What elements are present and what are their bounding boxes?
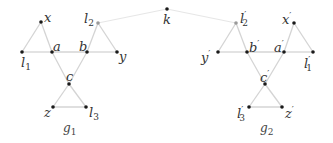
edge-l2-k: [98, 9, 167, 23]
label-l1p: l′1: [304, 56, 312, 73]
node-l1: [20, 50, 24, 54]
edge-k-l2p: [167, 9, 236, 23]
edge-l2p-yp: [218, 23, 236, 52]
label-ap: a′: [274, 40, 284, 54]
label-c: c: [66, 70, 73, 83]
label-bp: b′: [249, 40, 259, 54]
label-l3: l3: [89, 106, 99, 122]
node-l3: [84, 105, 88, 109]
label-z: z: [44, 106, 51, 119]
label-x: x: [44, 11, 51, 24]
label-b: b: [79, 40, 87, 53]
label-cp: c′: [260, 70, 269, 84]
node-yp: [216, 50, 220, 54]
label-zp: z′: [285, 106, 294, 120]
node-x: [39, 20, 43, 24]
edge-x-l1: [22, 22, 41, 52]
label-l3p: l′3: [237, 106, 245, 123]
label-g2: g2: [260, 122, 273, 137]
label-l2p: l′2: [240, 11, 248, 28]
node-l2: [96, 21, 100, 25]
node-xp: [292, 21, 296, 25]
edge-c-z: [53, 84, 69, 107]
node-l1p: [311, 50, 315, 54]
node-z: [51, 105, 55, 109]
edge-xp-l1p: [294, 23, 313, 52]
label-a: a: [53, 40, 61, 53]
label-y: y: [119, 50, 126, 63]
edge-cp-zp: [265, 84, 282, 107]
edge-x-a: [41, 22, 52, 52]
graph-g2-edges: [218, 23, 313, 107]
node-k: [165, 7, 169, 11]
label-xp: x′: [282, 12, 291, 26]
node-l3p: [247, 105, 251, 109]
label-l2: l2: [84, 12, 94, 28]
edge-c-l3: [69, 84, 86, 107]
graph-g1-edges: [22, 22, 117, 107]
label-k: k: [163, 13, 171, 26]
label-l1: l1: [21, 56, 31, 72]
node-zp: [280, 105, 284, 109]
label-yp: y′: [201, 50, 210, 64]
edge-xp-ap: [284, 23, 294, 52]
label-g1: g1: [63, 122, 76, 137]
node-l2p: [234, 21, 238, 25]
edge-l2-y: [98, 23, 117, 52]
edge-cp-l3p: [249, 84, 265, 107]
